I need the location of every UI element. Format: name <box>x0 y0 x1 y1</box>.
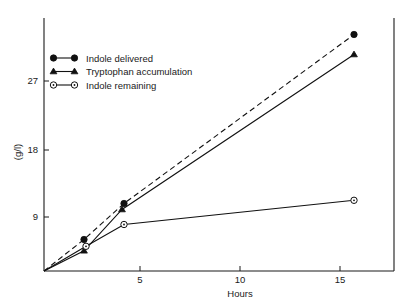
data-point-marker <box>351 31 357 37</box>
data-point-marker-center <box>353 199 355 201</box>
x-axis-title: Hours <box>227 288 253 299</box>
legend-label-indole-remaining: Indole remaining <box>86 80 156 91</box>
y-axis-title: (g/l) <box>12 144 23 160</box>
legend-marker-filled-circle <box>71 55 77 61</box>
legend-label-tryptophan-accumulation: Tryptophan accumulation <box>86 66 192 77</box>
legend-marker-open-circle-center <box>53 84 55 86</box>
line-chart: 9 18 27 5 10 15 (g/l) Hours <box>0 0 413 305</box>
x-tick-label-5: 5 <box>137 274 142 285</box>
data-point-marker-center <box>123 224 125 226</box>
data-point-marker <box>81 236 87 242</box>
data-point-marker-center <box>85 245 87 247</box>
y-tick-label-27: 27 <box>27 75 38 86</box>
legend-marker-filled-circle <box>50 55 56 61</box>
y-tick-label-9: 9 <box>33 211 38 222</box>
x-tick-label-15: 15 <box>335 274 346 285</box>
y-tick-label-18: 18 <box>27 144 38 155</box>
chart-figure: 9 18 27 5 10 15 (g/l) Hours <box>0 0 413 305</box>
x-tick-label-10: 10 <box>235 274 246 285</box>
legend-label-indole-delivered: Indole delivered <box>86 53 153 64</box>
legend-marker-open-circle-center <box>74 84 76 86</box>
